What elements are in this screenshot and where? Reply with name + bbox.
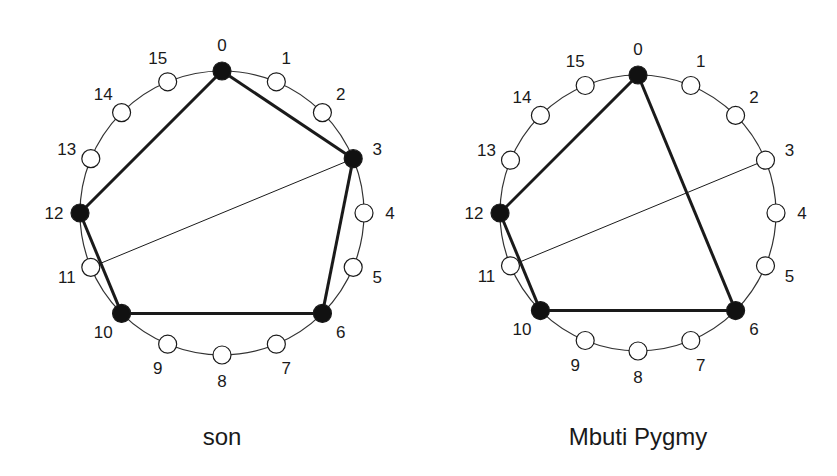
node-label-13: 13 — [477, 141, 496, 160]
rest-node-14 — [531, 106, 549, 124]
node-label-8: 8 — [633, 368, 642, 387]
rest-node-7 — [267, 335, 285, 353]
rest-node-1 — [682, 77, 700, 95]
rest-node-15 — [576, 77, 594, 95]
node-label-2: 2 — [336, 85, 345, 104]
node-label-10: 10 — [94, 323, 113, 342]
node-label-1: 1 — [696, 52, 705, 71]
node-label-9: 9 — [571, 356, 580, 375]
rhythm-necklace-diagrams: 0123456789101112131415son 01234567891011… — [0, 0, 837, 476]
node-label-13: 13 — [57, 140, 76, 159]
node-label-14: 14 — [94, 85, 113, 104]
node-label-2: 2 — [749, 88, 758, 107]
node-label-6: 6 — [336, 323, 345, 342]
node-label-11: 11 — [478, 267, 496, 286]
diagram-caption: Mbuti Pygmy — [569, 423, 708, 450]
node-label-1: 1 — [282, 49, 291, 68]
polygon-edge-0-6 — [638, 75, 736, 311]
rest-node-4 — [355, 204, 373, 222]
node-label-0: 0 — [217, 36, 226, 55]
rest-node-4 — [767, 204, 785, 222]
rest-node-1 — [267, 73, 285, 91]
rest-node-14 — [113, 104, 131, 122]
rest-node-2 — [313, 104, 331, 122]
node-label-12: 12 — [465, 204, 484, 223]
onset-node-10 — [113, 304, 131, 322]
rest-node-15 — [159, 73, 177, 91]
onset-node-0 — [629, 66, 647, 84]
thin-edge-3-11 — [511, 160, 766, 266]
node-label-5: 5 — [372, 268, 381, 287]
rest-node-11 — [502, 257, 520, 275]
onset-node-10 — [531, 302, 549, 320]
rest-node-11 — [82, 258, 100, 276]
polygon-edge-3-6 — [322, 159, 353, 314]
onset-node-6 — [313, 304, 331, 322]
onset-node-12 — [491, 204, 509, 222]
node-label-11: 11 — [58, 268, 76, 287]
rest-node-3 — [756, 151, 774, 169]
rest-node-5 — [756, 257, 774, 275]
necklace-diagram-son: 0123456789101112131415son — [45, 36, 395, 450]
node-label-7: 7 — [696, 356, 705, 375]
node-label-6: 6 — [749, 320, 758, 339]
onset-node-3 — [344, 150, 362, 168]
node-label-7: 7 — [282, 359, 291, 378]
node-label-8: 8 — [217, 372, 226, 391]
onset-node-6 — [727, 302, 745, 320]
node-label-4: 4 — [385, 204, 394, 223]
thin-edge-3-11 — [91, 159, 353, 268]
diagram-caption: son — [203, 423, 242, 450]
rest-node-8 — [213, 346, 231, 364]
node-label-15: 15 — [148, 49, 167, 68]
node-label-10: 10 — [513, 320, 532, 339]
node-label-12: 12 — [45, 204, 64, 223]
node-label-3: 3 — [785, 141, 794, 160]
rest-node-9 — [576, 331, 594, 349]
node-label-3: 3 — [372, 140, 381, 159]
rest-node-13 — [502, 151, 520, 169]
node-label-9: 9 — [153, 359, 162, 378]
rest-node-8 — [629, 342, 647, 360]
onset-node-0 — [213, 62, 231, 80]
rest-node-2 — [727, 106, 745, 124]
node-label-5: 5 — [785, 267, 794, 286]
necklace-diagram-mbuti-pygmy: 0123456789101112131415Mbuti Pygmy — [465, 40, 807, 450]
rest-node-7 — [682, 331, 700, 349]
node-label-0: 0 — [633, 40, 642, 59]
polygon-edge-0-3 — [222, 71, 353, 159]
node-label-14: 14 — [513, 88, 532, 107]
node-label-4: 4 — [797, 204, 806, 223]
rest-node-5 — [344, 258, 362, 276]
rest-node-9 — [159, 335, 177, 353]
node-label-15: 15 — [566, 52, 585, 71]
onset-node-12 — [71, 204, 89, 222]
rest-node-13 — [82, 150, 100, 168]
